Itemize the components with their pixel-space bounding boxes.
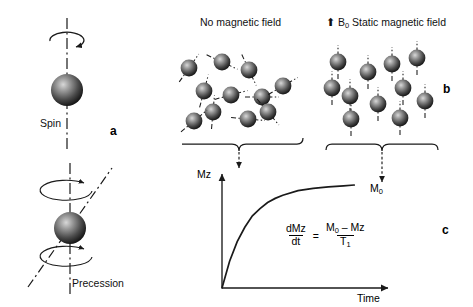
precession-label: Precession — [72, 277, 124, 289]
panel-letter-a: a — [110, 124, 117, 138]
b0-symbol: B — [338, 16, 345, 28]
spin-sphere — [254, 89, 271, 106]
rhs-mz: Mz — [351, 221, 365, 233]
spin-sphere — [330, 54, 347, 71]
b0-subscript: 0 — [345, 21, 349, 30]
spin-sphere — [342, 88, 359, 105]
rhs-minus: – — [342, 221, 348, 233]
spin-sphere — [417, 93, 434, 110]
precession-sphere — [54, 212, 86, 244]
spin-sphere — [186, 113, 203, 130]
m0-subscript: 0 — [379, 187, 383, 196]
equation-operator: = — [313, 230, 319, 242]
relaxation-equation: dMz dt = M0 – Mz T1 — [283, 222, 368, 249]
spin-sphere — [223, 87, 240, 104]
random-spin-group — [179, 54, 297, 132]
spin-sphere — [392, 110, 409, 127]
lhs-numerator: dMz — [283, 223, 309, 235]
spin-sphere — [214, 54, 231, 71]
spin-sphere — [196, 83, 213, 100]
spin-sphere — [370, 96, 387, 113]
rhs-t-sub: 1 — [346, 240, 350, 249]
panel-letter-b: b — [443, 82, 450, 96]
static-field-text: Static magnetic field — [352, 16, 446, 28]
precession-illustration — [28, 163, 112, 295]
panel-letter-c: c — [442, 223, 449, 237]
brace-right — [326, 144, 438, 151]
spin-sphere — [241, 62, 258, 79]
spin-sphere — [395, 80, 412, 97]
rhs-m0-sub: 0 — [335, 226, 339, 235]
spin-sphere — [260, 104, 277, 121]
spin-sphere — [360, 64, 377, 81]
spin-sphere — [275, 78, 292, 95]
m0-symbol: M — [370, 182, 379, 194]
equation-lhs-fraction: dMz dt — [283, 223, 309, 248]
figure-graphics — [0, 0, 473, 307]
aligned-spin-group — [324, 41, 434, 136]
spin-label: Spin — [40, 117, 61, 129]
static-field-title: ⬆︎ B0 Static magnetic field — [326, 16, 446, 30]
spin-illustration — [50, 18, 84, 152]
spin-sphere — [384, 56, 401, 73]
brace-left — [182, 138, 303, 151]
up-arrow-icon: ⬆︎ — [326, 16, 335, 28]
spin-sphere — [324, 80, 341, 97]
spin-sphere — [343, 111, 360, 128]
lhs-denominator: dt — [289, 235, 304, 248]
no-field-title: No magnetic field — [200, 16, 281, 28]
figure-root: Spin Precession a No magnetic field ⬆︎ B… — [0, 0, 473, 307]
equation-rhs-fraction: M0 – Mz T1 — [323, 222, 368, 249]
y-axis-label: Mz — [197, 168, 211, 180]
precession-cone-lower — [40, 246, 92, 266]
spin-sphere — [409, 50, 426, 67]
spin-sphere — [51, 74, 83, 106]
spin-sphere — [181, 60, 198, 77]
x-axis-label: Time — [357, 292, 380, 304]
spin-sphere — [240, 111, 257, 128]
rhs-m0: M — [326, 221, 335, 233]
m0-asymptote-label: M0 — [370, 182, 383, 196]
precession-cone-upper — [40, 180, 92, 200]
spin-sphere — [205, 104, 222, 121]
rhs-denominator: T1 — [337, 235, 354, 249]
rhs-numerator: M0 – Mz — [323, 222, 368, 235]
